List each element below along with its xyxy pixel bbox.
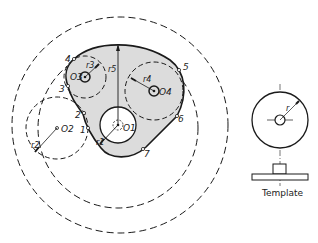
point-3 bbox=[66, 84, 69, 87]
label-o2: O2 bbox=[61, 124, 74, 134]
point-5 bbox=[177, 68, 180, 71]
label-point-4: 4 bbox=[65, 54, 71, 64]
label-o3: O3 bbox=[70, 72, 83, 82]
label-r3: r3 bbox=[86, 61, 94, 70]
label-r2: r2 bbox=[31, 141, 39, 150]
point-2 bbox=[82, 111, 85, 114]
label-o4: O4 bbox=[159, 87, 172, 97]
template-handle bbox=[273, 164, 286, 174]
label-point-3: 3 bbox=[59, 84, 65, 94]
label-o1: O1 bbox=[123, 123, 136, 133]
template-caption: Template bbox=[261, 188, 304, 198]
label-point-6: 6 bbox=[178, 114, 184, 124]
label-point-2: 2 bbox=[75, 110, 81, 120]
label-r1: r1 bbox=[96, 138, 104, 147]
template-base bbox=[252, 174, 308, 180]
cam-diagram: 1 2 3 4 5 6 7 O1 O2 O3 O4 r1 r2 r3 r4 r5… bbox=[0, 0, 318, 243]
point-4 bbox=[72, 57, 75, 60]
label-r5: r5 bbox=[108, 65, 116, 74]
label-point-1: 1 bbox=[80, 125, 86, 135]
template: r Template bbox=[252, 84, 308, 198]
point-1 bbox=[86, 126, 89, 129]
label-point-5: 5 bbox=[183, 62, 189, 72]
label-point-7: 7 bbox=[144, 149, 150, 159]
label-r4: r4 bbox=[143, 75, 151, 84]
